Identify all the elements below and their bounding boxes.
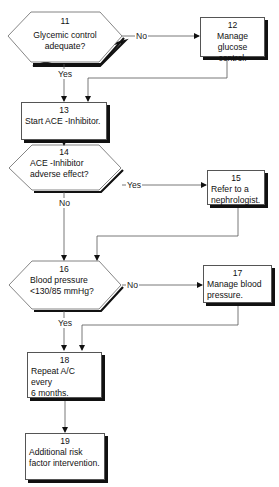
node-number: 14 bbox=[30, 147, 98, 158]
node-number: 15 bbox=[211, 173, 261, 184]
process-box-17: 17 Manage blood pressure. bbox=[203, 265, 272, 303]
edge-label-yes: Yes bbox=[57, 69, 73, 79]
process-box-19: 19 Additional risk factor intervention. bbox=[25, 433, 105, 480]
node-line: ACE -Inhibitor bbox=[30, 158, 110, 169]
node-line: control. bbox=[204, 53, 261, 64]
node-number: 13 bbox=[25, 105, 103, 116]
edge-label-no: No bbox=[58, 198, 71, 208]
node-line: nephrologist. bbox=[211, 195, 261, 206]
edge-17-18 bbox=[82, 306, 238, 350]
node-number: 17 bbox=[207, 268, 268, 279]
node-line: Start ACE -Inhibitor. bbox=[25, 116, 103, 127]
node-line: Additional risk bbox=[29, 447, 101, 458]
node-line: Manage blood bbox=[207, 279, 268, 290]
node-line: Refer to a bbox=[211, 184, 261, 195]
process-box-12: 12 Manage glucose control. bbox=[200, 17, 265, 57]
edge-label-no: No bbox=[126, 280, 139, 290]
node-number: 12 bbox=[204, 20, 261, 31]
node-line: adequate? bbox=[30, 41, 100, 52]
node-line: 6 months. bbox=[31, 388, 98, 399]
edge-label-yes: Yes bbox=[57, 318, 73, 328]
process-box-18: 18 Repeat A/C every 6 months. bbox=[27, 352, 102, 398]
node-line: Glycemic control bbox=[30, 30, 100, 41]
node-number: 11 bbox=[30, 16, 100, 27]
node-line: Blood pressure bbox=[30, 275, 110, 286]
process-box-15: 15 Refer to a nephrologist. bbox=[207, 170, 265, 205]
node-line: <130/85 mmHg? bbox=[30, 286, 110, 297]
node-line: factor intervention. bbox=[29, 458, 101, 469]
edge-12-13 bbox=[88, 60, 227, 101]
edge-label-no: No bbox=[135, 31, 148, 41]
node-line: Repeat A/C every bbox=[31, 366, 98, 388]
flowchart-connectors bbox=[0, 0, 279, 487]
node-line: adverse effect? bbox=[30, 169, 110, 180]
edge-15-16 bbox=[97, 208, 238, 260]
node-number: 19 bbox=[29, 436, 101, 447]
decision-14-text: 14 ACE -Inhibitor adverse effect? bbox=[30, 147, 110, 180]
decision-11-text: 11 Glycemic control adequate? bbox=[30, 16, 100, 52]
process-box-13: 13 Start ACE -Inhibitor. bbox=[21, 102, 107, 140]
node-number: 18 bbox=[31, 355, 98, 366]
node-line: Manage glucose bbox=[204, 31, 261, 53]
node-number: 16 bbox=[30, 264, 98, 275]
decision-16-text: 16 Blood pressure <130/85 mmHg? bbox=[30, 264, 110, 297]
node-line: pressure. bbox=[207, 290, 268, 301]
edge-label-yes: Yes bbox=[126, 180, 142, 190]
